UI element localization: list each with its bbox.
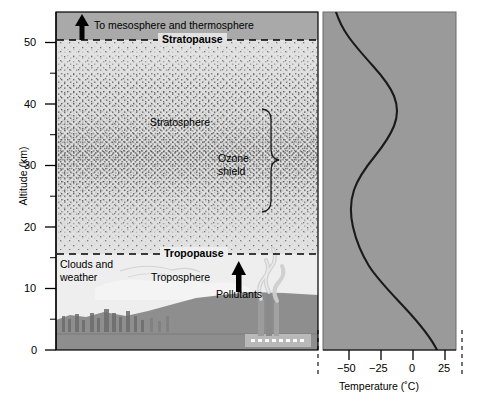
temperature-tick-0: 0: [409, 362, 415, 374]
altitude-tick-0: 0: [31, 344, 37, 356]
clouds-label-line1: Clouds and: [60, 258, 113, 270]
altitude-axis: [45, 12, 56, 350]
mesosphere-note-label: To mesosphere and thermosphere: [94, 19, 254, 31]
stratopause-label: Stratopause: [158, 33, 227, 45]
altitude-tick-30: 30: [24, 159, 36, 171]
altitude-tick-40: 40: [24, 98, 36, 110]
tropopause-label: Tropopause: [160, 247, 228, 259]
temperature-tick-minus50: −50: [337, 362, 356, 374]
temperature-panel: [318, 12, 462, 378]
temperature-panel-bg: [323, 12, 456, 350]
temperature-tick-minus25: −25: [369, 362, 388, 374]
altitude-tick-20: 20: [24, 221, 36, 233]
ozone-shield-label-line2: shield: [218, 165, 245, 177]
altitude-tick-50: 50: [24, 36, 36, 48]
atmosphere-temperature-figure: Altitude (km) 50 40 30 20 10 0 To mesosp…: [0, 0, 482, 405]
figure-canvas: [0, 0, 482, 405]
altitude-tick-10: 10: [24, 282, 36, 294]
altitude-axis-label: Altitude (km): [17, 131, 29, 221]
ozone-shield-label-line1: Ozone: [218, 152, 249, 164]
stratosphere-label: Stratosphere: [150, 116, 210, 128]
clouds-label-line2: weather: [60, 271, 97, 283]
ozone-stipple: [56, 40, 318, 250]
atmosphere-panel: [56, 12, 318, 350]
pollutants-label: Pollutants: [216, 288, 262, 300]
troposphere-label: Troposphere: [151, 271, 210, 283]
temperature-axis: [323, 350, 456, 360]
temperature-tick-25: 25: [438, 362, 450, 374]
temperature-axis-label: Temperature (˚C): [339, 380, 419, 392]
